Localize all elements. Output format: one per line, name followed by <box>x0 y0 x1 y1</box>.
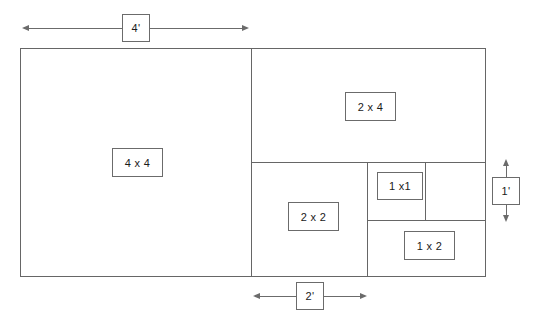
dimension-4ft-label: 4' <box>122 14 150 42</box>
divider-1x1-right <box>425 162 426 221</box>
dimension-4ft-arrow-left-icon <box>22 25 29 31</box>
label-2x4: 2 x 4 <box>345 92 396 121</box>
dimension-1ft-line-top <box>506 165 507 177</box>
label-2x2: 2 x 2 <box>288 202 339 231</box>
dimension-2ft-arrow-right-icon <box>360 293 367 299</box>
dimension-4ft-line-left <box>26 28 122 29</box>
dimension-1ft-arrow-down-icon <box>503 215 509 222</box>
dimension-2ft-arrow-left-icon <box>253 293 260 299</box>
dimension-1ft-label: 1' <box>492 177 520 205</box>
diagram-canvas: 4 x 4 2 x 4 2 x 2 1 x1 1 x 2 4' 2' 1' <box>0 0 539 324</box>
label-2x4-text: 2 x 4 <box>358 101 383 113</box>
dimension-4ft-line-right <box>150 28 244 29</box>
dimension-2ft-text: 2' <box>306 290 315 302</box>
label-2x2-text: 2 x 2 <box>301 211 326 223</box>
label-1x2-text: 1 x 2 <box>417 240 442 252</box>
label-1x2: 1 x 2 <box>404 231 455 260</box>
dimension-2ft-line-left <box>257 296 296 297</box>
label-1x1: 1 x1 <box>377 172 423 200</box>
dimension-1ft-text: 1' <box>502 185 511 197</box>
outer-rect-bottom-edge <box>20 276 486 277</box>
label-4x4-text: 4 x 4 <box>125 157 150 169</box>
divider-under-2x4 <box>251 162 486 163</box>
outer-rect-left-edge <box>20 48 21 277</box>
dimension-2ft-label: 2' <box>296 282 324 310</box>
outer-rect-top-edge <box>20 48 486 49</box>
dimension-4ft-text: 4' <box>132 22 141 34</box>
dimension-4ft-arrow-right-icon <box>242 25 249 31</box>
label-1x1-text: 1 x1 <box>389 180 411 192</box>
dimension-2ft-line-right <box>324 296 362 297</box>
dimension-1ft-arrow-up-icon <box>503 159 509 166</box>
divider-under-1x1 <box>367 220 486 221</box>
label-4x4: 4 x 4 <box>112 148 163 177</box>
